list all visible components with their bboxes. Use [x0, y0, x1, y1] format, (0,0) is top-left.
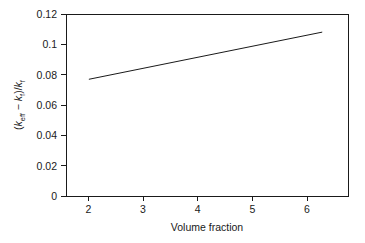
- x-tick-label-4: 6: [304, 203, 310, 215]
- y-tick-label-6: 0.12: [37, 8, 58, 20]
- y-tick-label-2: 0.04: [37, 129, 58, 141]
- x-axis-title: Volume fraction: [171, 221, 244, 233]
- y-tick-label-0: 0: [51, 190, 57, 202]
- y-tick-label-1: 0.02: [37, 160, 58, 172]
- ylabel-minus: −: [12, 101, 24, 113]
- y-tick-label-3: 0.06: [37, 99, 58, 111]
- y-tick-label-5: 0.1: [42, 38, 57, 50]
- x-tick-label-1: 3: [140, 203, 146, 215]
- x-tick-label-3: 5: [249, 203, 255, 215]
- x-tick-label-0: 2: [85, 203, 91, 215]
- chart-figure: 0 0.02 0.04 0.06 0.08 0.1 0.12 (keff − k…: [0, 0, 365, 243]
- line-chart: 0 0.02 0.04 0.06 0.08 0.1 0.12 (keff − k…: [0, 0, 365, 243]
- x-tick-label-2: 4: [195, 203, 201, 215]
- plot-frame: [66, 14, 348, 196]
- y-tick-label-4: 0.08: [37, 69, 58, 81]
